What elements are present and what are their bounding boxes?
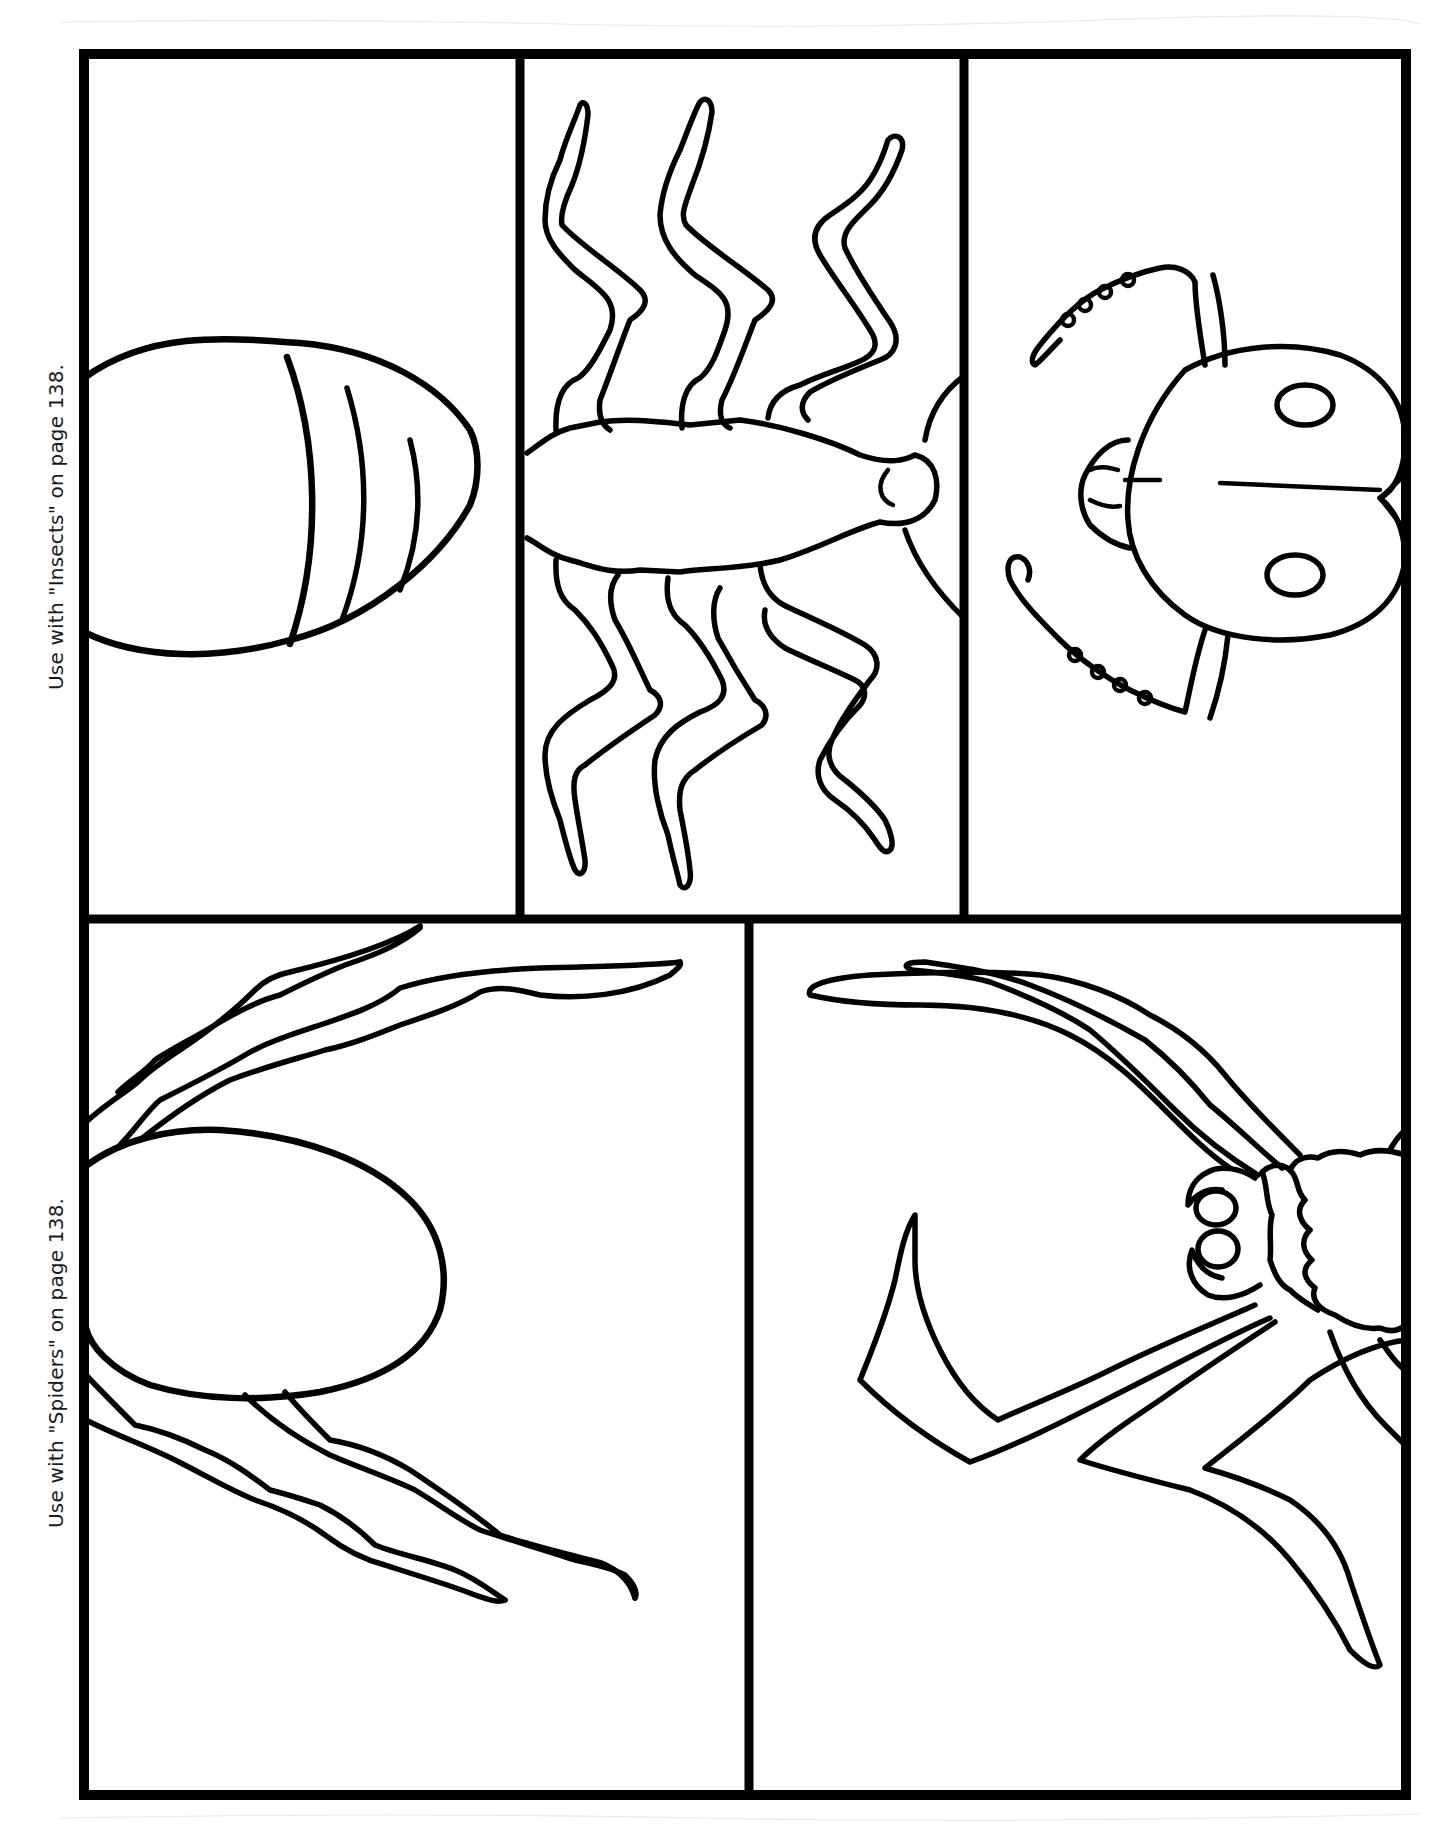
insects-section xyxy=(84,54,1406,919)
insect-abdomen-panel xyxy=(84,54,520,919)
insect-thorax-legs-panel xyxy=(524,54,964,919)
worksheet-page: Use with "Insects" on page 138. Use with… xyxy=(0,0,1452,1824)
spider-abdomen-legs-panel xyxy=(84,924,749,1795)
cutout-sheet xyxy=(0,0,1452,1824)
insect-head-panel xyxy=(968,54,1406,919)
spider-cephalothorax-panel xyxy=(753,924,1406,1795)
